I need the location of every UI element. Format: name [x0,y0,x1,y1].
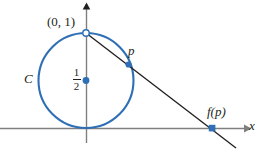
point-fp-marker [209,125,216,132]
y-axis-arrowhead-icon [83,3,91,10]
y-axis [83,3,91,144]
geometry-diagram [0,0,258,151]
fraction-numerator: 1 [70,67,83,79]
label-radius-one-half: 1 2 [70,67,83,92]
fraction-denominator: 2 [70,81,83,93]
label-north-pole: (0, 1) [47,15,75,28]
point-p-marker [125,61,131,67]
circle-center-marker [83,77,90,84]
label-circle-c: C [24,72,33,85]
north-pole-open-marker [83,30,89,36]
label-image-fp: f(p) [207,105,226,118]
label-x-axis: x [249,119,255,132]
figure-canvas: (0, 1) C p f(p) x 1 2 [0,0,258,151]
label-point-p: p [128,44,135,57]
